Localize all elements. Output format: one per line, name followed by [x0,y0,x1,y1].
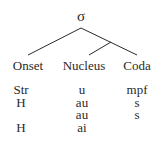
onset-cell: H [16,96,25,109]
onset-label: Onset [13,59,43,72]
nucleus-label: Nucleus [63,59,106,72]
branch-rhyme-coda [81,28,137,55]
coda-cell: s [134,108,139,121]
branch-onset [28,28,81,55]
nucleus-cell: ai [77,121,86,134]
syllable-root-label: σ [77,10,85,23]
onset-cell: H [16,121,25,134]
branch-nucleus [89,42,111,55]
coda-label: Coda [123,59,150,72]
